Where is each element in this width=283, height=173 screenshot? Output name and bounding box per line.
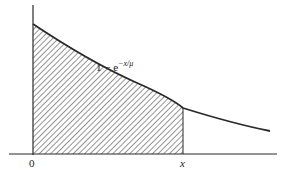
- curve-label-prefix: 1 − e: [96, 61, 118, 73]
- exponential-area-diagram: [0, 0, 283, 173]
- curve-label: 1 − e−x/μ: [96, 62, 133, 73]
- x-marker-label: x: [180, 158, 185, 169]
- curve-label-exponent: −x/μ: [118, 59, 133, 68]
- origin-label: 0: [29, 158, 35, 169]
- hatched-area: [33, 20, 183, 154]
